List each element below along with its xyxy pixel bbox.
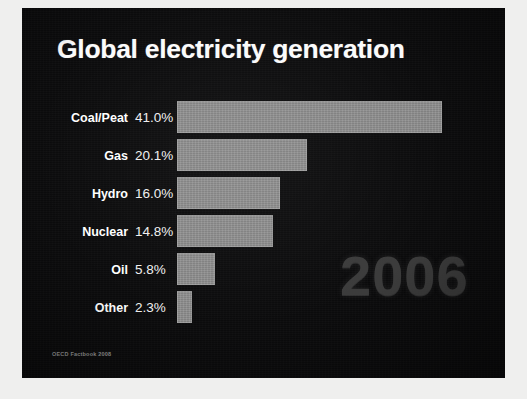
table-row: Coal/Peat41.0%	[22, 98, 505, 136]
row-label-group: Other2.3%	[32, 288, 177, 326]
table-row: Gas20.1%	[22, 136, 505, 174]
row-label-group: Hydro16.0%	[32, 174, 177, 212]
bar-gas	[177, 139, 307, 171]
bar-hydro	[177, 177, 280, 209]
row-label-group: Oil5.8%	[32, 250, 177, 288]
row-label-group: Coal/Peat41.0%	[32, 98, 177, 136]
category-label: Coal/Peat	[71, 111, 128, 125]
presentation-slide: Global electricity generation 2006 Coal/…	[22, 8, 505, 378]
bar-oil	[177, 253, 215, 285]
source-note: OECD Factbook 2008	[52, 351, 111, 357]
bar-chart: Coal/Peat41.0% Gas20.1% Hydro16.0% Nucle…	[22, 98, 505, 326]
value-label: 5.8%	[135, 251, 177, 289]
value-label: 14.8%	[135, 213, 177, 251]
table-row: Other2.3%	[22, 288, 505, 326]
value-label: 2.3%	[135, 289, 177, 327]
row-label-group: Gas20.1%	[32, 136, 177, 174]
row-label-group: Nuclear14.8%	[32, 212, 177, 250]
page-title: Global electricity generation	[57, 34, 405, 65]
table-row: Hydro16.0%	[22, 174, 505, 212]
bar-other	[177, 291, 192, 323]
image-canvas: Global electricity generation 2006 Coal/…	[0, 0, 527, 399]
category-label: Gas	[104, 149, 128, 163]
category-label: Nuclear	[82, 225, 128, 239]
value-label: 20.1%	[135, 137, 177, 175]
category-label: Other	[95, 301, 128, 315]
category-label: Oil	[111, 263, 128, 277]
value-label: 16.0%	[135, 175, 177, 213]
category-label: Hydro	[92, 187, 128, 201]
bar-coal-peat	[177, 101, 442, 133]
bar-nuclear	[177, 215, 273, 247]
value-label: 41.0%	[135, 99, 177, 137]
table-row: Nuclear14.8%	[22, 212, 505, 250]
table-row: Oil5.8%	[22, 250, 505, 288]
